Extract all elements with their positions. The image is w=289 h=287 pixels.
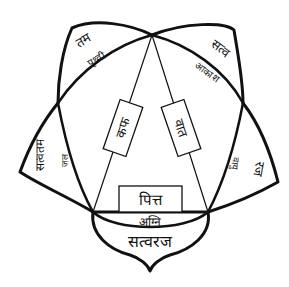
petal-left [20, 103, 93, 212]
box-pitta: पित्त [119, 186, 182, 212]
label-satva: सत्व [208, 36, 234, 60]
label-prithvi: पृथ्वी [85, 49, 107, 69]
pitta-label: पित्त [139, 191, 163, 209]
petal-top-left [58, 23, 152, 103]
label-raj: रज [251, 160, 268, 177]
box-kapha: कफ [103, 100, 143, 157]
label-agni: अग्नि [139, 215, 161, 229]
five-element-lotus-diagram: कफ वात पित्त तम पृथ्वी सत्व आकाश सत्वतम … [0, 0, 289, 287]
box-vata: वात [161, 100, 201, 157]
petal-right [208, 103, 278, 212]
label-satvatam: सत्वतम [33, 138, 47, 171]
label-jal: जल [60, 153, 70, 167]
label-tam: तम [73, 30, 93, 50]
label-satvaraj: सत्वरज [128, 232, 173, 251]
